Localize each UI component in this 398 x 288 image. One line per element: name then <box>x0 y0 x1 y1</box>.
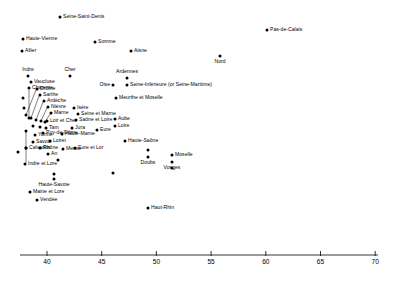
point-label: Oise <box>99 82 110 88</box>
data-point <box>96 129 99 132</box>
data-point <box>49 140 52 143</box>
data-point <box>115 97 118 100</box>
point-label: Allier <box>25 48 36 54</box>
data-point <box>53 178 56 181</box>
data-point <box>75 119 78 122</box>
data-point <box>77 113 80 116</box>
data-point <box>25 130 28 133</box>
data-point <box>17 151 20 154</box>
data-point <box>40 120 43 123</box>
data-point <box>22 38 25 41</box>
point-label: Ardennes <box>116 69 138 75</box>
point-label: An <box>51 151 57 157</box>
data-point <box>126 84 129 87</box>
point-label: Aube <box>118 116 130 122</box>
data-point <box>29 191 32 194</box>
data-point <box>39 126 42 129</box>
data-point <box>27 75 30 78</box>
point-label: Calvados <box>29 145 50 151</box>
data-point <box>62 148 65 151</box>
data-point <box>34 134 37 137</box>
point-label: Indre <box>22 67 34 73</box>
data-point <box>32 125 35 128</box>
data-point <box>147 156 150 159</box>
x-tick-label: 40 <box>43 258 50 265</box>
data-point <box>53 173 56 176</box>
data-point <box>74 147 77 150</box>
data-point <box>73 107 76 110</box>
data-point <box>266 29 269 32</box>
x-tick-label: 55 <box>207 258 214 265</box>
data-point <box>57 159 60 162</box>
point-label: Meurthe et Moselle <box>119 95 163 101</box>
data-point <box>36 199 39 202</box>
data-point <box>114 125 117 128</box>
data-point <box>32 141 35 144</box>
data-point <box>112 172 115 175</box>
data-point <box>30 81 33 84</box>
data-point <box>24 163 27 166</box>
point-label: Somme <box>98 39 116 45</box>
point-label: Loir et Cher <box>50 118 77 124</box>
data-point <box>126 77 129 80</box>
data-point <box>130 50 133 53</box>
data-point <box>50 112 53 115</box>
data-point <box>42 132 45 135</box>
point-label: Haute-Saône <box>128 138 158 144</box>
data-point <box>147 149 150 152</box>
data-point <box>112 84 115 87</box>
data-point <box>35 119 38 122</box>
point-label: Seine-Saint-Denis <box>63 14 104 20</box>
point-label: Vendée <box>40 197 57 203</box>
x-tick-label: 50 <box>153 258 160 265</box>
data-point <box>44 121 47 124</box>
x-tick-label: 60 <box>262 258 269 265</box>
data-point <box>43 100 46 103</box>
point-label: Saône et Loire <box>79 117 112 123</box>
data-point <box>47 106 50 109</box>
data-point <box>22 97 25 100</box>
data-point <box>25 147 28 150</box>
data-point <box>59 16 62 19</box>
data-point <box>147 207 150 210</box>
point-label: Haute-Savoie <box>38 182 69 188</box>
data-point <box>36 88 39 91</box>
data-point <box>28 117 31 120</box>
point-label: Haut-Rhin <box>151 205 174 211</box>
point-label: Moselle <box>175 152 193 158</box>
data-point <box>114 118 117 121</box>
scatter-plot-figure: Seine-Saint-DenisHaute-VienneSommeAllier… <box>0 0 398 288</box>
data-point <box>219 55 222 58</box>
point-label: Loiret <box>53 138 66 144</box>
point-label: Pas-de-Calais <box>270 27 302 33</box>
point-label: Doubs <box>141 160 156 166</box>
point-label: Seine-Inférieure (or Seine-Maritime) <box>130 82 212 88</box>
x-tick-label: 65 <box>317 258 324 265</box>
data-point <box>47 153 50 156</box>
data-point <box>23 107 26 110</box>
data-point <box>39 94 42 97</box>
point-label: Loire <box>118 123 129 129</box>
point-label: Eure <box>100 127 111 133</box>
point-label: Nord <box>214 59 225 65</box>
data-point <box>171 161 174 164</box>
data-point <box>28 87 31 90</box>
point-label: Aisne <box>134 48 147 54</box>
point-label: Haute-Vienne <box>26 36 57 42</box>
point-label: Eure et Lor <box>78 145 103 151</box>
data-point <box>69 75 72 78</box>
data-point <box>21 50 24 53</box>
point-label: Cher <box>64 67 75 73</box>
x-tick-label: 45 <box>98 258 105 265</box>
point-label: Haute-Marne <box>65 131 95 137</box>
data-point <box>171 154 174 157</box>
data-point <box>61 133 64 136</box>
data-point <box>171 167 174 170</box>
x-tick-label: 70 <box>372 258 379 265</box>
plot-area: Seine-Saint-DenisHaute-VienneSommeAllier… <box>0 0 398 288</box>
point-label: Indre et Lore <box>28 161 57 167</box>
point-label: Maine et Lore <box>33 189 64 195</box>
data-point <box>94 41 97 44</box>
point-label: Marne <box>54 110 69 116</box>
data-point <box>124 140 127 143</box>
